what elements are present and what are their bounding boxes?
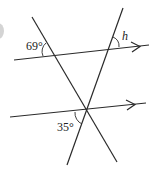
geometry-diagram: 69° h 35° [0,0,164,169]
edge-marker [0,23,4,39]
transversal-left [32,17,117,162]
angle-label-35: 35° [57,120,74,134]
transversal-right [67,8,123,165]
angle-label-69: 69° [26,39,43,53]
lower-parallel-line [10,103,146,117]
angle-label-h: h [122,29,128,43]
angle-arc-35 [75,112,82,124]
angle-arc-h [113,37,119,47]
